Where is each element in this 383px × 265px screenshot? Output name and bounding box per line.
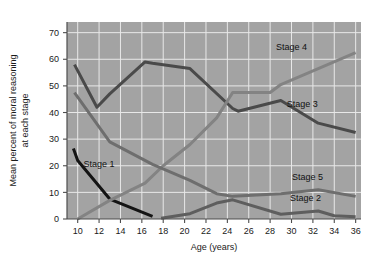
tick-label-y: 70	[49, 28, 59, 38]
tick-label-x: 12	[94, 226, 104, 236]
series-label-stage-3: Stage 3	[287, 99, 318, 109]
tick-label-x: 16	[137, 226, 147, 236]
line-chart: 010203040506070 101214161820222426283032…	[0, 0, 383, 265]
tick-label-y: 40	[49, 108, 59, 118]
tick-label-x: 32	[308, 226, 318, 236]
tick-label-y: 50	[49, 81, 59, 91]
tick-label-x: 34	[329, 226, 339, 236]
y-axis-title-line1: Mean percent of moral reasoning	[8, 54, 18, 186]
tick-label-x: 28	[265, 226, 275, 236]
y-axis-title-line2: at each stage	[20, 93, 30, 147]
tick-label-y: 60	[49, 54, 59, 64]
tick-label-y: 0	[54, 214, 59, 224]
tick-label-x: 10	[73, 226, 83, 236]
tick-label-y: 30	[49, 134, 59, 144]
tick-label-y: 10	[49, 188, 59, 198]
tick-label-x: 14	[115, 226, 125, 236]
tick-label-x: 24	[222, 226, 232, 236]
series-label-stage-5: Stage 5	[292, 172, 323, 182]
tick-label-x: 22	[201, 226, 211, 236]
tick-label-x: 18	[158, 226, 168, 236]
chart-figure: 010203040506070 101214161820222426283032…	[0, 0, 383, 265]
tick-label-x: 30	[287, 226, 297, 236]
series-label-stage-4: Stage 4	[276, 42, 307, 52]
series-label-stage-2: Stage 2	[290, 193, 321, 203]
tick-label-y: 20	[49, 161, 59, 171]
x-axis-title: Age (years)	[191, 242, 238, 252]
tick-label-x: 26	[244, 226, 254, 236]
series-label-stage-1: Stage 1	[84, 159, 115, 169]
tick-label-x: 20	[180, 226, 190, 236]
tick-label-x: 36	[351, 226, 361, 236]
